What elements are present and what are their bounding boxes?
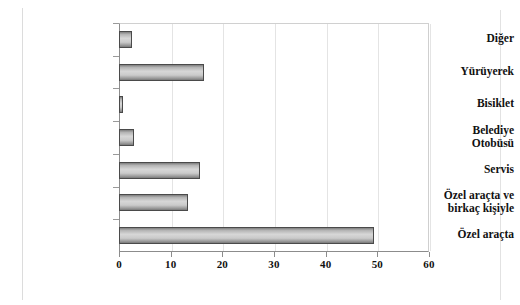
plot-area: [119, 23, 429, 252]
gridline-x-40: [327, 24, 328, 251]
x-axis-tick-40: [326, 252, 327, 257]
y-axis-tick-0: [113, 219, 119, 220]
y-axis-category-label-3: BelediyeOtobüsü: [408, 124, 520, 150]
bar-1: [119, 194, 188, 211]
x-axis-tick-10: [171, 252, 172, 257]
y-axis-tick-2: [113, 154, 119, 155]
x-axis-tick-label-30: 30: [254, 258, 294, 270]
bar-0: [119, 227, 374, 244]
y-axis-category-label-6: Diğer: [408, 32, 520, 45]
y-axis-category-label-4: Bisiklet: [408, 97, 520, 110]
x-axis-tick-label-10: 10: [151, 258, 191, 270]
y-axis-tick-6: [113, 23, 119, 24]
gridline-x-30: [275, 24, 276, 251]
x-axis-tick-label-0: 0: [99, 258, 139, 270]
x-axis-tick-30: [274, 252, 275, 257]
bar-3: [119, 129, 134, 146]
x-axis-tick-label-20: 20: [202, 258, 242, 270]
y-axis-category-label-0: Özel araçta: [408, 228, 520, 241]
bar-5: [119, 64, 204, 81]
bar-4: [119, 96, 123, 113]
x-axis-tick-0: [119, 252, 120, 257]
y-axis-category-label-2: Servis: [408, 163, 520, 176]
y-axis-tick-5: [113, 56, 119, 57]
gridline-x-20: [223, 24, 224, 251]
y-axis-category-label-1: Özel araçta vebirkaç kişiyle: [408, 189, 520, 215]
bar-6: [119, 31, 132, 48]
x-axis-tick-20: [222, 252, 223, 257]
gridline-x-10: [172, 24, 173, 251]
gridline-x-50: [378, 24, 379, 251]
x-axis-tick-60: [429, 252, 430, 257]
x-axis-tick-label-40: 40: [306, 258, 346, 270]
x-axis-tick-50: [377, 252, 378, 257]
y-axis-category-label-5: Yürüyerek: [408, 65, 520, 78]
bar-2: [119, 162, 200, 179]
y-axis-tick-1: [113, 187, 119, 188]
x-axis-tick-label-50: 50: [357, 258, 397, 270]
x-axis-tick-label-60: 60: [409, 258, 449, 270]
y-axis-tick-3: [113, 121, 119, 122]
y-axis-tick-4: [113, 88, 119, 89]
bar-chart-figure: 0102030405060Özel araçtaÖzel araçta vebi…: [0, 0, 520, 305]
